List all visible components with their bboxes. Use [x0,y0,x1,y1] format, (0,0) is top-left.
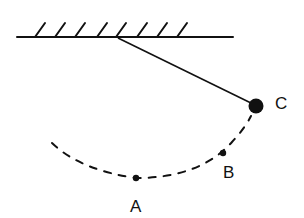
point-a-label: A [130,197,142,216]
point-b-label: B [223,163,234,182]
point-b-marker [220,150,226,156]
ceiling-support [17,23,233,37]
pendulum-bob [249,99,264,114]
swing-arc-path [52,116,251,178]
point-c-label: C [275,94,287,113]
ceiling-hatching [35,23,187,37]
pendulum-diagram: A B C [0,0,304,218]
point-a-marker [133,175,139,181]
pendulum-string [118,38,253,104]
